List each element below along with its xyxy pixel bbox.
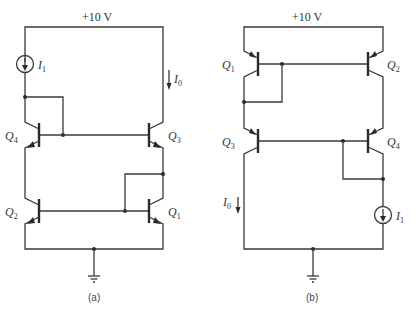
label-q4-b: Q4	[387, 135, 400, 151]
emitter-arrow-icon	[153, 141, 161, 148]
transistor-q2-a: Q2	[5, 196, 39, 226]
emitter-arrow-icon	[370, 128, 377, 135]
supply-label-a: +10 V	[82, 10, 113, 24]
emitter-arrow-icon	[249, 51, 256, 58]
ground-rail-a	[25, 226, 163, 249]
transistor-q1-a: Q1	[149, 196, 181, 226]
ground-rail-b	[244, 157, 383, 249]
emitter-arrow-icon	[153, 217, 161, 224]
emitter-arrow-icon	[27, 141, 35, 148]
caption-b: (b)	[306, 292, 318, 303]
circuit-figure: +10 V I1 I0 Q4	[0, 0, 416, 313]
arrow-down-icon	[380, 216, 386, 222]
label-i0-a: I0	[173, 72, 182, 88]
output-current-b: I0	[222, 195, 241, 214]
label-q1-b: Q1	[222, 58, 235, 74]
label-i1-a: I1	[37, 58, 46, 74]
label-q3-b: Q3	[222, 135, 235, 151]
label-q4-a: Q4	[5, 129, 18, 145]
current-source-i1-b: I1	[375, 207, 405, 226]
label-q2-a: Q2	[5, 205, 18, 221]
current-source-i1-a: I1	[17, 56, 47, 75]
ground-icon	[307, 249, 319, 282]
transistor-q1-b: Q1	[222, 50, 258, 80]
transistor-q4-b: Q4	[368, 127, 400, 157]
output-current-a: I0	[167, 70, 183, 90]
transistor-q3-b: Q3	[222, 127, 258, 157]
transistor-q4-a: Q4	[5, 120, 39, 150]
supply-rail-b	[244, 27, 383, 50]
circuit-b: +10 V Q1 Q2	[222, 10, 404, 303]
transistor-q3-a: Q3	[149, 120, 181, 150]
label-q1-a: Q1	[168, 205, 181, 221]
arrow-down-icon	[22, 65, 28, 71]
supply-label-b: +10 V	[292, 10, 323, 24]
label-q3-a: Q3	[168, 129, 181, 145]
emitter-arrow-icon	[27, 217, 35, 224]
arrow-down-icon	[167, 83, 172, 90]
emitter-arrow-icon	[370, 51, 377, 58]
arrow-down-icon	[236, 207, 241, 214]
label-q2-b: Q2	[387, 58, 400, 74]
label-i0-b: I0	[222, 195, 231, 211]
ground-icon	[88, 249, 100, 282]
emitter-arrow-icon	[249, 128, 256, 135]
transistor-q2-b: Q2	[368, 50, 400, 80]
circuit-a: +10 V I1 I0 Q4	[5, 10, 182, 303]
caption-a: (a)	[88, 292, 100, 303]
label-i1-b: I1	[395, 209, 404, 225]
